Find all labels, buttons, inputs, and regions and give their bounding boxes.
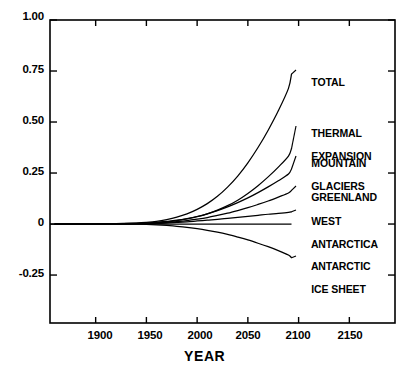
xtick-label-2000: 2000 <box>176 329 224 341</box>
curve-greenland <box>55 190 291 224</box>
leader-line-thermal-expansion <box>292 126 297 149</box>
xtick-label-2150: 2150 <box>326 329 374 341</box>
sea-level-rise-chart: 1.00 0.75 0.50 0.25 0 -0.25 1900 1950 20… <box>0 0 411 376</box>
leader-line-west-antarctica <box>292 210 297 212</box>
curve-label-west-line1: WEST <box>311 215 341 227</box>
xtick-label-2050: 2050 <box>224 329 272 341</box>
curve-total <box>55 74 291 224</box>
curve-label-total-line1: TOTAL <box>311 76 345 88</box>
ytick-label-2: 0.75 <box>2 63 44 75</box>
ytick-label-1: 1.00 <box>2 10 44 22</box>
curve-thermal-expansion <box>55 149 291 225</box>
curve-label-greenland-line1: GREENLAND <box>311 191 377 203</box>
xtick-label-1950: 1950 <box>126 329 174 341</box>
data-curves <box>55 74 291 258</box>
leader-line-mountain-glaciers <box>292 156 297 169</box>
ytick-label-5: 0 <box>2 216 44 228</box>
curve-label-thermal-line1: THERMAL <box>311 127 362 139</box>
x-axis-title: YEAR <box>184 348 225 364</box>
label-leader-lines <box>292 70 297 258</box>
curve-label-west-line2: ANTARCTICA <box>311 238 378 250</box>
leader-line-antarctic-ice-sheet <box>292 256 297 258</box>
curve-antarctic-ice-sheet <box>55 224 291 258</box>
ytick-label-4: 0.25 <box>2 165 44 177</box>
ytick-label-3: 0.50 <box>2 114 44 126</box>
curve-label-mountain-line1: MOUNTAIN <box>311 157 366 169</box>
xtick-label-2100: 2100 <box>274 329 322 341</box>
curve-label-antarctic-line2: ICE SHEET <box>311 283 366 295</box>
leader-line-total <box>292 70 297 74</box>
curve-label-total: TOTAL <box>300 65 345 100</box>
curve-label-antarctic-line1: ANTARCTIC <box>311 260 371 272</box>
curve-label-antarctic-ice-sheet: ANTARCTIC ICE SHEET <box>300 249 370 307</box>
xtick-label-1900: 1900 <box>76 329 124 341</box>
ytick-label-6: -0.25 <box>2 267 44 279</box>
leader-line-greenland <box>292 186 297 190</box>
